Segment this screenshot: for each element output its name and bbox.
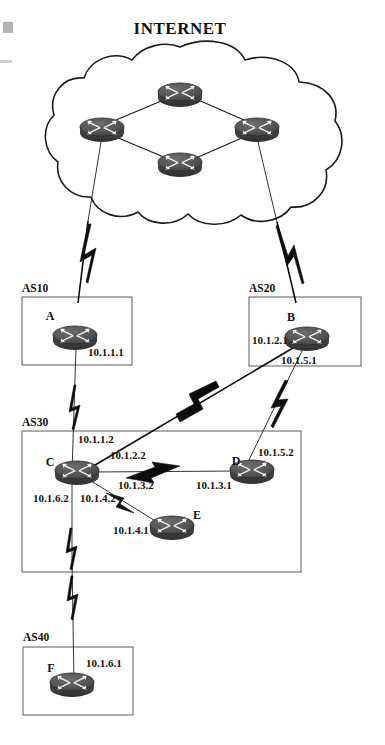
router-b[interactable] — [285, 327, 329, 351]
link-b-d-bolt — [271, 380, 288, 428]
router-cloud-right[interactable] — [235, 118, 279, 142]
router-e[interactable] — [150, 516, 194, 540]
scan-artifacts — [0, 22, 13, 63]
as-label-as30: AS30 — [22, 416, 48, 428]
router-label-c: C — [46, 455, 55, 469]
ip-label-d-10-1-5-2: 10.1.5.2 — [258, 446, 294, 458]
as-label-as10: AS10 — [22, 282, 48, 294]
as-label-as20: AS20 — [249, 282, 275, 294]
ip-label-c-10-1-1-2: 10.1.1.2 — [78, 433, 114, 445]
link-a-c-bolt — [69, 385, 80, 430]
router-label-b: B — [287, 310, 295, 324]
cloud-title: INTERNET — [134, 19, 227, 38]
router-label-d: D — [232, 454, 241, 468]
link-a-c[interactable] — [69, 348, 80, 472]
ip-label-a-10-1-1-1: 10.1.1.1 — [88, 346, 124, 358]
link-a-internet-bolt — [80, 224, 96, 283]
link-c-f-bolt-upper — [66, 528, 77, 570]
as-label-as40: AS40 — [23, 631, 49, 643]
link-b-c-bolt — [176, 381, 219, 422]
ip-label-c-10-1-2-2: 10.1.2.2 — [110, 449, 146, 461]
router-cloud-bottom[interactable] — [158, 153, 202, 177]
router-f[interactable] — [50, 673, 94, 697]
ip-label-e-10-1-4-1: 10.1.4.1 — [113, 524, 149, 536]
router-cloud-top[interactable] — [158, 83, 202, 107]
ip-label-f-10-1-6-1: 10.1.6.1 — [86, 657, 122, 669]
network-diagram: INTERNET — [0, 0, 385, 745]
ip-label-d-10-1-3-1: 10.1.3.1 — [196, 479, 232, 491]
router-cloud-left[interactable] — [80, 118, 124, 142]
diagram-canvas: INTERNET — [0, 0, 385, 745]
router-label-f: F — [47, 661, 54, 675]
interface-address-labels: 10.1.1.1 10.1.2.1 10.1.5.1 10.1.1.2 10.1… — [33, 334, 317, 669]
ip-label-c-10-1-4-2: 10.1.4.2 — [80, 492, 116, 504]
ip-label-b-10-1-2-1: 10.1.2.1 — [252, 334, 288, 346]
router-label-a: A — [46, 309, 55, 323]
router-label-e: E — [193, 508, 201, 522]
ip-label-c-10-1-3-2: 10.1.3.2 — [118, 479, 154, 491]
router-c[interactable] — [55, 461, 99, 485]
ip-label-c-10-1-6-2: 10.1.6.2 — [33, 492, 69, 504]
ip-label-b-10-1-5-1: 10.1.5.1 — [281, 354, 317, 366]
